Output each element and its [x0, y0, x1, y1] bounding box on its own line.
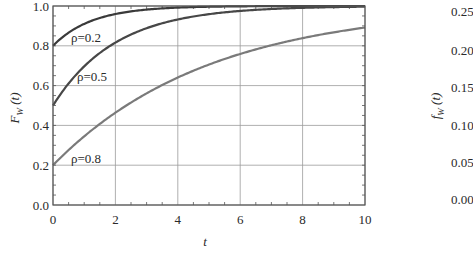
- y-tick-label: 0.2: [33, 158, 49, 173]
- curve-label-rho-0.8: ρ=0.8: [71, 151, 101, 166]
- x-tick-label: 0: [50, 212, 57, 227]
- y-tick-label: 0.4: [33, 118, 50, 133]
- right-y-tick-label: 0.05: [451, 155, 473, 170]
- pdf-plot-partial: fW (t) 0.250.200.150.100.050.00: [428, 4, 473, 207]
- curve-label-rho-0.2: ρ=0.2: [71, 30, 101, 45]
- y-axis-label: FW (t): [7, 93, 25, 125]
- x-tick-label: 6: [237, 212, 244, 227]
- right-y-tick-label: 0.00: [451, 192, 473, 207]
- right-y-tick-label: 0.10: [451, 118, 473, 133]
- curve-rho-0.8: [53, 28, 365, 166]
- x-tick-label: 8: [299, 212, 306, 227]
- x-tick-labels: 0246810: [50, 212, 372, 227]
- right-y-tick-label: 0.20: [451, 43, 473, 58]
- x-tick-label: 4: [175, 212, 182, 227]
- y-tick-label: 0.8: [33, 38, 49, 53]
- cdf-and-pdf-figure: 0246810 0.00.20.40.60.81.0 ρ=0.2 ρ=0.5 ρ…: [0, 0, 473, 257]
- x-tick-label: 2: [112, 212, 119, 227]
- y-axis-label-arg: (t): [7, 93, 22, 109]
- cdf-plot: 0246810 0.00.20.40.60.81.0 ρ=0.2 ρ=0.5 ρ…: [7, 0, 372, 249]
- right-y-axis-label: fW (t): [428, 93, 446, 120]
- y-tick-label: 0.6: [33, 78, 50, 93]
- right-y-tick-label: 0.15: [451, 80, 473, 95]
- y-tick-label: 0.0: [33, 198, 49, 213]
- curve-label-rho-0.5: ρ=0.5: [77, 69, 107, 84]
- y-tick-label: 1.0: [33, 0, 49, 14]
- right-y-tick-labels: 0.250.200.150.100.050.00: [451, 4, 473, 207]
- y-tick-labels: 0.00.20.40.60.81.0: [33, 0, 50, 213]
- right-y-tick-label: 0.25: [451, 4, 473, 19]
- x-axis-label: t: [203, 234, 207, 249]
- curve-rho-0.5: [53, 7, 365, 106]
- x-tick-label: 10: [359, 212, 372, 227]
